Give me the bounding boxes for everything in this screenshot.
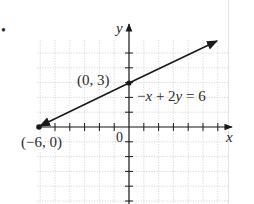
y-axis-label: y <box>114 20 123 36</box>
grid <box>37 40 228 204</box>
point-label-neg6-0: (−6, 0) <box>21 134 62 151</box>
line-series <box>129 41 217 83</box>
graph-figure: • y x 0 (0, 3) (−6, 0) −x + 2y = 6 <box>0 0 254 204</box>
equation-label: −x + 2y = 6 <box>137 88 206 104</box>
point-label-0-3: (0, 3) <box>77 72 110 89</box>
x-axis-label: x <box>225 129 233 145</box>
point-0-3 <box>126 80 131 85</box>
origin-label: 0 <box>116 130 123 145</box>
point-neg6-0 <box>36 124 42 130</box>
list-bullet: • <box>1 23 6 38</box>
